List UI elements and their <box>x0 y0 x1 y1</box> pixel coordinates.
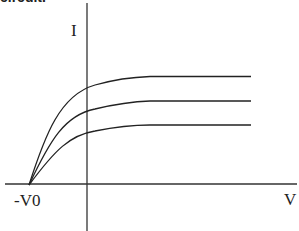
y-axis-label: I <box>71 22 77 39</box>
iv-diagram <box>0 0 299 231</box>
curve-mid <box>29 101 251 185</box>
origin-offset-label: -V0 <box>14 192 40 209</box>
x-axis-label: V <box>284 191 296 208</box>
curve-low <box>29 125 251 185</box>
curve-high <box>29 77 251 186</box>
